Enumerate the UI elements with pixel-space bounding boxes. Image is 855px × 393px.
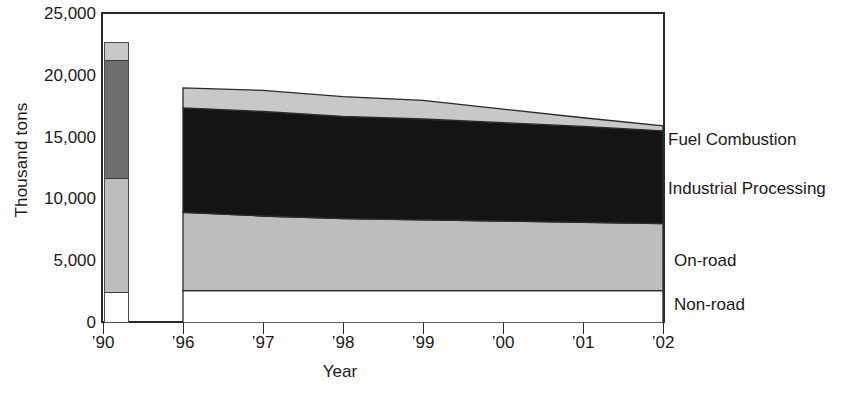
y-tick-label: 25,000 [22,5,96,22]
legend-item-fuel-combustion: Fuel Combustion [668,130,797,150]
y-tick-label: 0 [22,314,96,331]
y-tick-label: 10,000 [22,190,96,207]
x-axis-title: Year [0,362,680,382]
area-series-on-road [183,212,663,290]
legend-item-on-road: On-road [674,251,736,271]
stacked-area-plot [101,12,665,323]
x-tick-label: ’99 [412,333,435,353]
legend-item-industrial-processing: Industrial Processing [668,179,826,199]
y-axis-tick-labels: 25,000 20,000 15,000 10,000 5,000 0 [18,0,96,340]
x-tick-label: ’90 [92,333,115,353]
y-tick-label: 15,000 [22,129,96,146]
x-tick-label: ’00 [492,333,515,353]
chart-legend: Fuel Combustion Industrial Processing On… [668,0,855,340]
x-tick-label: ’97 [252,333,275,353]
x-tick-label: ’96 [172,333,195,353]
area-series-non-road [183,291,663,323]
x-tick-label: ’01 [572,333,595,353]
legend-item-non-road: Non-road [674,295,745,315]
y-tick-label: 20,000 [22,67,96,84]
x-tick-label: ’98 [332,333,355,353]
y-tick-label: 5,000 [22,252,96,269]
chart-figure: Thousand tons 25,000 20,000 15,000 10,00… [0,0,855,393]
